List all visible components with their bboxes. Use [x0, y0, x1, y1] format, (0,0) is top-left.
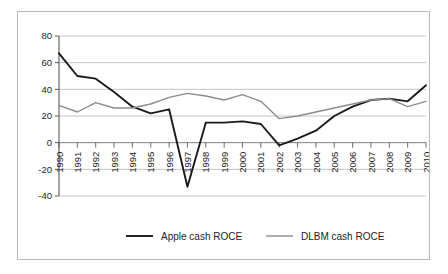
y-axis-label: 80	[41, 30, 52, 41]
x-axis-label: 1995	[145, 152, 156, 173]
x-axis-label: 2003	[292, 152, 303, 173]
x-axis-label: 1996	[164, 152, 175, 173]
x-axis-label: 2005	[329, 152, 340, 173]
line-chart: -40-200204060801990199119921993199419951…	[18, 12, 429, 259]
legend-label: DLBM cash ROCE	[301, 231, 385, 242]
x-axis-label: 2006	[347, 152, 358, 173]
y-axis-label: -40	[38, 190, 52, 201]
x-axis-label: 2002	[274, 152, 285, 173]
x-axis-label: 1994	[127, 152, 138, 173]
x-axis-label: 1991	[72, 152, 83, 173]
x-axis-label: 2004	[311, 152, 322, 173]
series-line	[59, 93, 426, 118]
y-axis-label: 20	[41, 110, 52, 121]
x-axis-label: 1999	[219, 152, 230, 173]
x-axis-label: 2007	[366, 152, 377, 173]
x-axis-label: 1992	[90, 152, 101, 173]
x-axis-label: 2000	[237, 152, 248, 173]
x-axis-label: 1993	[109, 152, 120, 173]
y-axis-label: -20	[38, 164, 52, 175]
x-axis-label: 1998	[200, 152, 211, 173]
x-axis-label: 1990	[54, 152, 65, 173]
x-axis-label: 2008	[384, 152, 395, 173]
x-axis-label: 2009	[402, 152, 413, 173]
y-axis-label: 60	[41, 57, 52, 68]
legend-label: Apple cash ROCE	[161, 231, 242, 242]
y-axis-label: 40	[41, 84, 52, 95]
y-axis-label: 0	[47, 137, 52, 148]
x-axis-label: 2001	[255, 152, 266, 173]
chart-frame: -40-200204060801990199119921993199419951…	[17, 11, 430, 260]
x-axis-label: 2010	[421, 152, 429, 173]
